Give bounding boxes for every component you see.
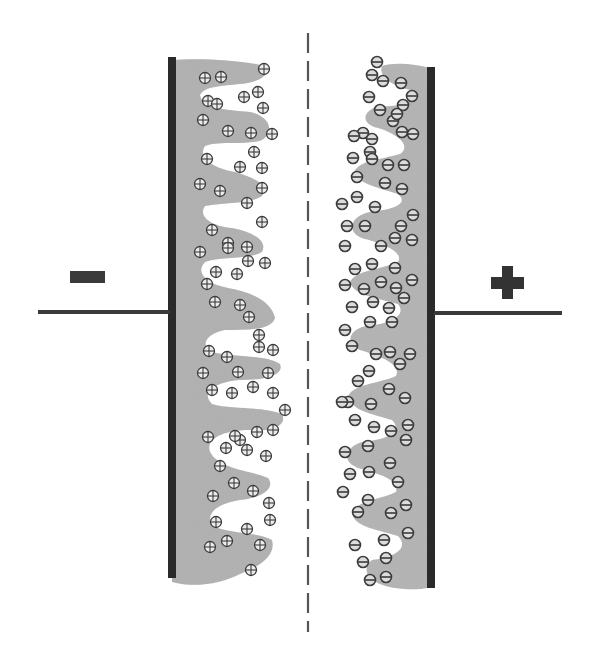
positive-plate bbox=[427, 67, 435, 588]
anion-icon bbox=[366, 399, 377, 410]
anion-icon bbox=[372, 57, 383, 68]
cation-icon bbox=[268, 425, 279, 436]
cation-icon bbox=[198, 115, 209, 126]
anion-icon bbox=[368, 297, 379, 308]
cation-icon bbox=[233, 367, 244, 378]
cation-icon bbox=[265, 515, 276, 526]
anion-icon bbox=[342, 221, 353, 232]
cation-icon bbox=[253, 87, 264, 98]
cation-icon bbox=[215, 186, 226, 197]
anion-icon bbox=[347, 341, 358, 352]
anion-icon bbox=[352, 192, 363, 203]
anion-icon bbox=[350, 264, 361, 275]
cation-icon bbox=[207, 385, 218, 396]
anion-icon bbox=[360, 221, 371, 232]
cation-icon bbox=[254, 342, 265, 353]
anion-icon bbox=[408, 129, 419, 140]
cation-icon bbox=[260, 258, 271, 269]
cation-icon bbox=[248, 382, 259, 393]
supercapacitor-diagram: Electric double-layer capacitor bbox=[0, 0, 599, 645]
cation-icon bbox=[211, 517, 222, 528]
cation-icon bbox=[230, 431, 241, 442]
cation-icon bbox=[223, 126, 234, 137]
cation-icon bbox=[246, 128, 257, 139]
anion-icon bbox=[403, 528, 414, 539]
cation-icon bbox=[242, 198, 253, 209]
plus-sign-icon bbox=[491, 266, 524, 299]
anion-icon bbox=[363, 495, 374, 506]
anion-icon bbox=[401, 435, 412, 446]
anion-icon bbox=[381, 553, 392, 564]
cation-icon bbox=[264, 498, 275, 509]
cation-icon bbox=[195, 247, 206, 258]
anion-icon bbox=[364, 366, 375, 377]
cation-icon bbox=[207, 225, 218, 236]
anion-icon bbox=[387, 317, 398, 328]
anion-icon bbox=[370, 202, 381, 213]
anion-icon bbox=[401, 500, 412, 511]
anion-icon bbox=[396, 221, 407, 232]
anion-icon bbox=[393, 477, 404, 488]
cation-icon bbox=[257, 217, 268, 228]
cation-icon bbox=[268, 345, 279, 356]
negative-wire bbox=[38, 310, 170, 314]
cation-icon bbox=[202, 279, 213, 290]
cation-icon bbox=[246, 565, 257, 576]
cation-icon bbox=[243, 256, 254, 267]
anion-icon bbox=[347, 302, 358, 313]
anion-icon bbox=[383, 160, 394, 171]
anion-icon bbox=[352, 172, 363, 183]
cation-icon bbox=[280, 405, 291, 416]
minus-sign-icon bbox=[70, 271, 105, 283]
anion-icon bbox=[367, 134, 378, 145]
cation-icon bbox=[257, 183, 268, 194]
cation-icon bbox=[202, 154, 213, 165]
cation-icon bbox=[254, 330, 265, 341]
positive-wire bbox=[434, 311, 562, 315]
anion-icon bbox=[378, 76, 389, 87]
anion-icon bbox=[367, 259, 378, 270]
anion-icon bbox=[369, 422, 380, 433]
anion-icon bbox=[345, 469, 356, 480]
anion-icon bbox=[380, 178, 391, 189]
cation-icon bbox=[204, 346, 215, 357]
anion-icon bbox=[405, 349, 416, 360]
cation-icon bbox=[255, 540, 266, 551]
anion-icon bbox=[340, 241, 351, 252]
anion-icon bbox=[385, 458, 396, 469]
cation-icon bbox=[258, 103, 269, 114]
anion-icon bbox=[363, 441, 374, 452]
cation-icon bbox=[208, 491, 219, 502]
cation-icon bbox=[229, 478, 240, 489]
anion-icon bbox=[376, 241, 387, 252]
anion-icon bbox=[364, 92, 375, 103]
cation-icon bbox=[235, 162, 246, 173]
anion-icon bbox=[340, 325, 351, 336]
anion-icon bbox=[390, 263, 401, 274]
anion-icon bbox=[337, 199, 348, 210]
anion-icon bbox=[379, 535, 390, 546]
cation-icon bbox=[235, 300, 246, 311]
anion-icon bbox=[376, 277, 387, 288]
anion-icon bbox=[400, 393, 411, 404]
anion-icon bbox=[364, 467, 375, 478]
cation-icon bbox=[195, 179, 206, 190]
anion-icon bbox=[390, 233, 401, 244]
anion-icon bbox=[384, 384, 395, 395]
anion-icon bbox=[337, 397, 348, 408]
anion-icon bbox=[358, 557, 369, 568]
cation-icon bbox=[261, 451, 272, 462]
anion-icon bbox=[353, 376, 364, 387]
cation-icon bbox=[205, 542, 216, 553]
cation-icon bbox=[198, 368, 209, 379]
anion-icon bbox=[350, 540, 361, 551]
cation-icon bbox=[252, 427, 263, 438]
anion-icon bbox=[386, 508, 397, 519]
cation-icon bbox=[221, 443, 232, 454]
anion-icon bbox=[397, 127, 408, 138]
anion-icon bbox=[391, 283, 402, 294]
anion-icon bbox=[353, 507, 364, 518]
anion-icon bbox=[338, 487, 349, 498]
anion-icon bbox=[384, 303, 395, 314]
cation-icon bbox=[239, 92, 250, 103]
